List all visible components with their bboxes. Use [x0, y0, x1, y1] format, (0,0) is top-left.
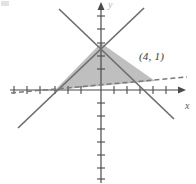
x-axis-arrowhead — [178, 87, 186, 94]
point-label-4-1: (4, 1) — [139, 50, 164, 62]
y-axis-arrowhead — [98, 2, 105, 10]
descending-solid-line — [59, 9, 174, 119]
x-axis-label: x — [185, 100, 189, 111]
y-axis-label: y — [108, 0, 112, 10]
y-axis — [97, 2, 105, 183]
coordinate-plane-figure: (4, 1) x y — [0, 0, 196, 184]
plot-canvas — [0, 0, 196, 184]
